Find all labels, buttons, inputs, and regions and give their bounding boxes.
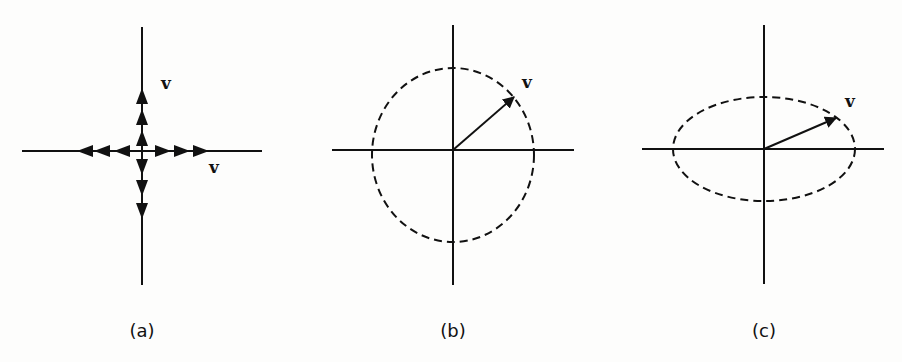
- panel-b-vector-label: v: [521, 72, 533, 92]
- figure-svg: v v (a) v (b) v (c): [0, 0, 902, 362]
- figure-canvas: v v (a) v (b) v (c): [0, 0, 902, 362]
- panel-a-down-arrowheads: [136, 159, 148, 219]
- panel-b-caption: (b): [440, 320, 465, 341]
- panel-a-vector-label-right: v: [208, 157, 220, 177]
- panel-c-vector-label: v: [844, 91, 856, 111]
- panel-c-vector-arrow: [764, 118, 836, 149]
- panel-b: v (b): [332, 25, 574, 341]
- panel-a: v v (a): [22, 27, 262, 341]
- panel-c: v (c): [642, 25, 884, 341]
- panel-a-left-arrowheads: [77, 145, 130, 157]
- panel-a-caption: (a): [129, 320, 154, 341]
- panel-a-vector-label-up: v: [160, 73, 172, 93]
- panel-b-vector-arrow: [453, 97, 514, 150]
- panel-c-caption: (c): [752, 320, 776, 341]
- panel-a-right-arrowheads: [155, 145, 209, 157]
- panel-a-up-arrowheads: [136, 88, 148, 146]
